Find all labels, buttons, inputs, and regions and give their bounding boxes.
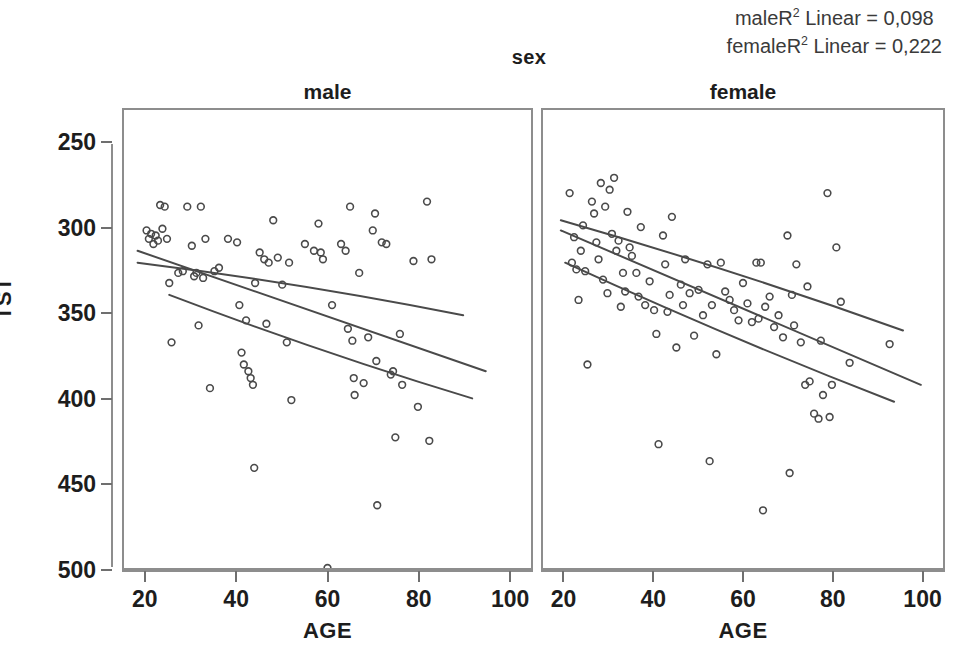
y-tick-label: 250 <box>58 129 96 156</box>
data-point <box>263 320 270 327</box>
plot-panel-male <box>122 108 533 570</box>
y-tick-mark <box>101 141 112 143</box>
panel-title-male: male <box>122 80 533 104</box>
data-point <box>662 261 669 268</box>
confidence-band-lower-male <box>169 295 472 398</box>
y-tick-mark <box>101 569 112 571</box>
male-r-squared-prefix: maleR <box>735 7 793 29</box>
data-point <box>740 280 747 287</box>
data-point <box>252 280 259 287</box>
data-point <box>188 242 195 249</box>
data-point <box>236 302 243 309</box>
x-tick-mark <box>742 571 744 582</box>
data-point <box>749 319 756 326</box>
data-point <box>365 334 372 341</box>
y-axis-line <box>111 144 113 567</box>
data-point <box>197 203 204 210</box>
x-tick-mark <box>418 571 420 582</box>
data-point <box>653 331 660 338</box>
x-tick-label: 80 <box>820 586 846 613</box>
panel-title-female: female <box>541 80 945 104</box>
data-point <box>602 203 609 210</box>
x-tick-label: 80 <box>406 586 432 613</box>
data-point <box>288 397 295 404</box>
data-point <box>837 298 844 305</box>
data-point <box>372 210 379 217</box>
data-point <box>784 232 791 239</box>
x-tick-label: 20 <box>551 586 577 613</box>
data-point <box>351 392 358 399</box>
data-point <box>780 334 787 341</box>
data-point <box>274 254 281 261</box>
data-point <box>234 239 241 246</box>
data-point <box>655 441 662 448</box>
data-point <box>159 225 166 232</box>
data-point <box>829 381 836 388</box>
data-point <box>286 259 293 266</box>
data-point <box>270 217 277 224</box>
data-point <box>225 236 232 243</box>
data-point <box>575 297 582 304</box>
data-point <box>775 312 782 319</box>
x-tick-label: 20 <box>132 586 158 613</box>
data-point <box>426 437 433 444</box>
data-point <box>566 190 573 197</box>
data-point <box>691 332 698 339</box>
plot-panel-female <box>541 108 945 570</box>
data-point <box>195 322 202 329</box>
data-point <box>686 290 693 297</box>
data-point <box>637 224 644 231</box>
data-point <box>320 256 327 263</box>
data-point <box>251 465 258 472</box>
data-point <box>324 565 331 568</box>
x-tick-mark <box>922 571 924 582</box>
data-point <box>744 300 751 307</box>
data-point <box>706 458 713 465</box>
data-point <box>669 213 676 220</box>
data-point <box>791 322 798 329</box>
x-tick-mark <box>832 571 834 582</box>
data-point <box>240 361 247 368</box>
data-point <box>311 247 318 254</box>
data-point <box>755 315 762 322</box>
data-point <box>700 312 707 319</box>
data-point <box>597 180 604 187</box>
male-r-squared-superscript: 2 <box>793 6 800 20</box>
x-axis-female: 20406080100 <box>541 570 945 610</box>
data-point <box>673 344 680 351</box>
x-tick-label: 40 <box>223 586 249 613</box>
x-tick-label: 100 <box>903 586 941 613</box>
data-point <box>349 337 356 344</box>
y-tick-mark <box>101 483 112 485</box>
x-tick-label: 40 <box>640 586 666 613</box>
data-point <box>615 237 622 244</box>
data-point <box>329 302 336 309</box>
data-point <box>666 292 673 299</box>
data-point <box>786 470 793 477</box>
plot-area-male <box>124 110 531 568</box>
data-point <box>611 174 618 181</box>
data-point <box>620 270 627 277</box>
data-point <box>633 270 640 277</box>
data-point <box>757 259 764 266</box>
data-point <box>369 227 376 234</box>
data-point <box>589 198 596 205</box>
data-point <box>760 507 767 514</box>
data-point <box>591 210 598 217</box>
data-point <box>374 502 381 509</box>
data-point <box>642 302 649 309</box>
y-tick-mark <box>101 312 112 314</box>
data-point <box>342 247 349 254</box>
data-point <box>595 256 602 263</box>
data-point <box>428 256 435 263</box>
regression-line-male <box>138 251 486 371</box>
x-tick-mark <box>562 571 564 582</box>
x-tick-mark <box>652 571 654 582</box>
data-point <box>184 203 191 210</box>
data-point <box>247 375 254 382</box>
data-point <box>577 247 584 254</box>
data-point <box>397 331 404 338</box>
data-point <box>256 249 263 256</box>
data-point <box>200 275 207 282</box>
y-tick-label: 500 <box>58 557 96 584</box>
